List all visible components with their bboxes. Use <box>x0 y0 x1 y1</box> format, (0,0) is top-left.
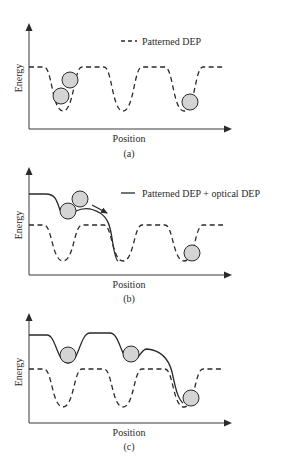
x-axis-label: Position <box>113 427 146 438</box>
y-axis-label: Energy <box>13 358 24 387</box>
particle <box>72 191 88 207</box>
y-axis-arrow-icon <box>26 23 33 31</box>
particle <box>53 88 69 104</box>
x-axis-label: Position <box>113 133 146 144</box>
y-axis-label: Energy <box>13 64 24 93</box>
motion-arrow-icon <box>92 205 107 213</box>
particle <box>182 94 198 110</box>
particle <box>123 346 139 362</box>
particle <box>184 245 200 261</box>
particle <box>183 390 199 406</box>
panel-a: Patterned DEP Energy Position (a) <box>13 23 232 160</box>
panel-c: Energy Position (c) <box>13 313 232 453</box>
particle <box>60 347 76 363</box>
dep-energy-diagram: Patterned DEP Energy Position (a) Patter… <box>0 0 285 472</box>
x-axis-arrow-icon <box>224 126 232 133</box>
y-axis-arrow-icon <box>26 313 33 321</box>
particle <box>60 203 76 219</box>
panel-caption: (a) <box>123 148 134 160</box>
panel-b: Patterned DEP + optical DEP Energy Posit… <box>13 167 260 305</box>
panel-caption: (c) <box>123 441 134 453</box>
particle <box>62 72 78 88</box>
combined-dep-curve <box>29 333 183 403</box>
y-axis-arrow-icon <box>26 167 33 175</box>
panel-caption: (b) <box>123 293 135 305</box>
x-axis-arrow-icon <box>224 420 232 427</box>
legend-label: Patterned DEP <box>142 36 202 47</box>
y-axis-label: Energy <box>13 211 24 240</box>
legend-label: Patterned DEP + optical DEP <box>142 188 260 199</box>
x-axis-arrow-icon <box>224 272 232 279</box>
x-axis-label: Position <box>113 279 146 290</box>
